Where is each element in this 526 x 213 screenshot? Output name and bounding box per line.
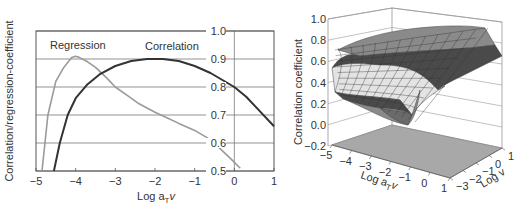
x-tick: −5	[30, 175, 43, 187]
x-tick: −1	[398, 171, 411, 183]
x-tick: −4	[339, 155, 352, 167]
plot-frame	[36, 31, 274, 171]
svg-text:Correlation/regression-coeffic: Correlation/regression-coefficient	[3, 20, 15, 181]
y-tick-labels: 1.00.90.80.70.60.5	[206, 25, 226, 177]
annotation-regression: Regression	[50, 39, 106, 51]
x-tick: 1	[271, 175, 277, 187]
y-tick: 0.9	[211, 53, 226, 65]
y-tick: −3	[456, 180, 469, 192]
z-tick: 0.6	[311, 55, 326, 67]
z-tick: 0.2	[311, 98, 326, 110]
x-tick: −1	[188, 175, 201, 187]
regression-correlation-line-chart: Correlation/regression-coefficient 1.00.…	[0, 0, 280, 213]
y-tick: 0.6	[211, 137, 226, 149]
x-tick: −3	[109, 175, 122, 187]
x-tick: 1	[441, 182, 447, 194]
y-tick: 0.5	[211, 165, 226, 177]
x-tick: 0	[231, 175, 237, 187]
z-tick: 0.0	[311, 119, 326, 131]
annotation-correlation: Correlation	[145, 40, 199, 52]
z-tick-labels: 1.00.80.60.40.20.0−0.2	[304, 13, 326, 152]
y-tick: 1.0	[211, 25, 226, 37]
x-tick: −2	[149, 175, 162, 187]
z-tick: 0.8	[311, 34, 326, 46]
z-tick: 1.0	[311, 13, 326, 25]
series-lines	[42, 56, 274, 171]
y-tick: 1	[508, 150, 514, 162]
x-axis-label: Log aTv	[137, 190, 176, 205]
z-tick: 0.4	[311, 77, 326, 89]
x-tick: −5	[320, 149, 333, 161]
y-tick: 0.7	[211, 109, 226, 121]
floor-plane	[332, 125, 502, 178]
gridlines	[36, 31, 274, 171]
y-axis-label: Correlation/regression-coefficient	[3, 20, 15, 181]
x-tick: 0	[421, 177, 427, 189]
z-axis-label: Correlation coefficient	[292, 39, 304, 145]
correlation-surface-3d-chart: Correlation coefficient 1.00.80.60.40.20…	[280, 0, 526, 213]
y-tick: 0.8	[211, 81, 226, 93]
x-tick: −4	[69, 175, 82, 187]
